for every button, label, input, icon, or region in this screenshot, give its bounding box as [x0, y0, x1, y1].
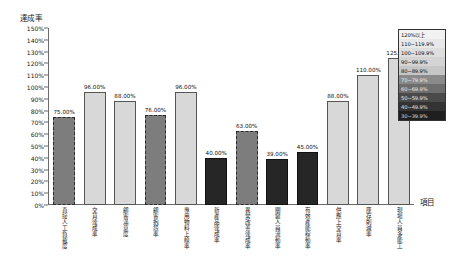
bar[interactable]	[236, 131, 258, 205]
x-axis-category-label: 異常改善達成率	[244, 207, 250, 249]
y-axis-tick-label: 130%	[27, 48, 44, 55]
bars-layer: 75.00%96.00%88.00%76.00%96.00%40.00%63.0…	[49, 28, 414, 205]
bar[interactable]	[175, 92, 197, 205]
x-axis-category-label: 現場人員多能工	[396, 207, 402, 249]
legend-entry: 30~39.9%	[399, 111, 445, 120]
bar-slot: 76.00%	[145, 28, 167, 205]
bar-value-label: 40.00%	[206, 150, 227, 156]
legend-entry: 120%以上	[399, 30, 445, 39]
bar[interactable]	[205, 158, 227, 205]
bar-slot: 45.00%	[297, 28, 319, 205]
x-axis-title: 項目	[420, 196, 434, 207]
bar-slot: 88.00%	[114, 28, 136, 205]
bar[interactable]	[357, 75, 379, 205]
bar-value-label: 75.00%	[54, 109, 75, 115]
x-axis-category-label: 有效產能稼動率	[305, 207, 311, 249]
legend-box: 120%以上110~119.9%100~109.9%90~99.9%80~89.…	[398, 29, 446, 121]
y-axis-tick-label: 70%	[31, 119, 44, 126]
bar-slot: 75.00%	[53, 28, 75, 205]
achievement-rate-bar-chart: 達成率 150%140%130%120%110%100%90%80%70%60%…	[0, 0, 468, 277]
y-axis-tick-label: 150%	[27, 25, 44, 32]
bar-value-label: 88.00%	[327, 93, 348, 99]
y-axis-tick-label: 140%	[27, 36, 44, 43]
bar-slot: 96.00%	[175, 28, 197, 205]
legend-entry: 90~99.9%	[399, 57, 445, 66]
y-axis-tick-label: 120%	[27, 60, 44, 67]
x-axis-labels: 直接人工負載度交貨達成率顧客滿意度顧客抱怨率專用物料上線率新產品達成率異常改善達…	[49, 207, 414, 269]
y-axis-tick-label: 30%	[31, 166, 44, 173]
bar[interactable]	[327, 101, 349, 205]
legend-entry: 40~49.9%	[399, 102, 445, 111]
bar[interactable]	[145, 115, 167, 205]
bar[interactable]	[53, 117, 75, 206]
y-axis-tick-label: 110%	[27, 72, 44, 79]
y-axis-tick-label: 0%	[34, 202, 44, 209]
bar-slot: 63.00%	[236, 28, 258, 205]
bar-slot: 96.00%	[84, 28, 106, 205]
y-axis-tick-label: 50%	[31, 143, 44, 150]
x-axis-category-label: 專用物料上線率	[183, 207, 189, 249]
legend-entry: 110~119.9%	[399, 39, 445, 48]
x-axis-category-label: 庫存削減率	[366, 207, 372, 237]
bar-value-label: 63.00%	[236, 123, 257, 129]
bar-value-label: 76.00%	[145, 107, 166, 113]
x-axis-category-label: 直接人工負載度	[61, 207, 67, 249]
x-axis-category-label: 新產品達成率	[213, 207, 219, 243]
bar-slot: 39.00%	[266, 28, 288, 205]
bar-slot: 88.00%	[327, 28, 349, 205]
bar-value-label: 110.00%	[356, 67, 381, 73]
legend-entry: 60~69.9%	[399, 84, 445, 93]
y-axis-ticks: 150%140%130%120%110%100%90%80%70%60%50%4…	[0, 28, 48, 205]
legend-entry: 70~79.9%	[399, 75, 445, 84]
y-axis-tick-label: 100%	[27, 84, 44, 91]
bar-value-label: 96.00%	[84, 84, 105, 90]
bar[interactable]	[114, 101, 136, 205]
y-axis-tick-label: 10%	[31, 190, 44, 197]
y-axis-tick-label: 90%	[31, 95, 44, 102]
y-axis-title: 達成率	[20, 12, 42, 23]
x-axis-category-label: 供應上交貨率	[335, 207, 341, 243]
y-axis-tick-label: 40%	[31, 154, 44, 161]
legend-entry: 50~59.9%	[399, 93, 445, 102]
x-axis-category-label: 關鍵人員流動率	[274, 207, 280, 249]
bar-slot: 40.00%	[205, 28, 227, 205]
x-axis-category-label: 交貨達成率	[92, 207, 98, 237]
y-axis-tick-label: 20%	[31, 178, 44, 185]
bar-value-label: 96.00%	[175, 84, 196, 90]
bar[interactable]	[297, 152, 319, 205]
bar-value-label: 88.00%	[114, 93, 135, 99]
legend-entry: 80~89.9%	[399, 66, 445, 75]
y-axis-tick-label: 60%	[31, 131, 44, 138]
bar-slot: 110.00%	[357, 28, 379, 205]
legend-entry: 100~109.9%	[399, 48, 445, 57]
bar[interactable]	[84, 92, 106, 205]
x-axis-category-label: 顧客抱怨率	[153, 207, 159, 237]
bar-value-label: 39.00%	[266, 151, 287, 157]
bar[interactable]	[266, 159, 288, 205]
y-axis-tick-label: 80%	[31, 107, 44, 114]
bar-value-label: 45.00%	[297, 144, 318, 150]
x-axis-category-label: 顧客滿意度	[122, 207, 128, 237]
